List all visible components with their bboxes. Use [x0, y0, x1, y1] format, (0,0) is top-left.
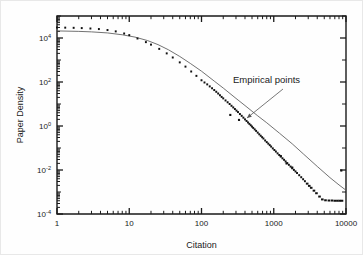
fit-curve — [57, 31, 346, 190]
data-point — [308, 185, 311, 187]
data-point — [222, 97, 224, 99]
data-point — [239, 113, 241, 115]
y-tick-label: 10-2 — [37, 165, 51, 175]
data-point — [64, 27, 66, 29]
outlier-point — [280, 155, 282, 157]
data-point — [179, 61, 181, 63]
data-point — [338, 200, 341, 202]
data-point — [227, 101, 229, 103]
data-point — [73, 27, 75, 29]
data-point — [128, 34, 130, 36]
data-point — [98, 28, 100, 30]
x-tick-label: 1000 — [265, 219, 283, 228]
data-point — [331, 200, 334, 202]
data-point — [270, 146, 272, 148]
x-tick-labels: 110100100010000 — [55, 219, 358, 228]
x-tick-label: 100 — [195, 219, 209, 228]
data-point — [242, 117, 244, 119]
x-tick-label: 10 — [125, 219, 134, 228]
data-point — [310, 187, 313, 189]
outlier-points — [229, 114, 342, 172]
data-point — [137, 37, 139, 39]
data-point — [150, 44, 152, 46]
data-point — [318, 196, 321, 198]
data-point — [145, 41, 147, 43]
data-point — [306, 183, 309, 185]
data-point — [215, 91, 217, 93]
annotation-label: Empirical points — [233, 74, 300, 85]
data-point — [262, 138, 264, 140]
data-point — [225, 99, 227, 101]
data-point — [300, 176, 302, 178]
data-point — [313, 190, 316, 192]
y-tick-labels: 10-410-2100102104 — [37, 33, 51, 219]
data-point — [166, 52, 168, 54]
x-tick-label: 10000 — [335, 219, 358, 228]
citation-paper-density-chart: 110100100010000 10-410-2100102104 Citati… — [1, 1, 363, 255]
annotation-leader-line — [247, 89, 283, 118]
data-point — [315, 192, 318, 194]
data-point — [321, 198, 324, 200]
data-point — [334, 200, 337, 202]
data-point — [123, 33, 125, 35]
data-point — [231, 105, 233, 107]
data-point — [206, 83, 208, 85]
data-point — [158, 48, 160, 50]
data-point — [209, 85, 211, 87]
data-point — [275, 151, 277, 153]
data-point — [328, 200, 331, 202]
data-point — [204, 81, 206, 83]
data-point — [302, 178, 304, 180]
y-tick-label: 10-4 — [37, 209, 51, 219]
data-point — [195, 75, 197, 77]
data-point — [89, 28, 91, 30]
data-point — [56, 27, 58, 29]
y-tick-label: 104 — [39, 33, 51, 43]
data-points — [56, 27, 343, 202]
data-point — [211, 87, 213, 89]
data-point — [219, 94, 221, 96]
x-tick-label: 1 — [55, 219, 60, 228]
outlier-point — [340, 169, 342, 171]
y-axis-ticks — [57, 16, 346, 214]
data-point — [229, 103, 231, 105]
y-tick-label: 102 — [39, 77, 51, 87]
data-point — [304, 180, 306, 182]
data-point — [172, 56, 174, 58]
data-point — [232, 106, 234, 108]
data-point — [341, 200, 344, 202]
outlier-point — [285, 162, 287, 164]
data-point — [237, 111, 239, 113]
annotation-group: Empirical points — [233, 74, 300, 118]
data-point — [277, 152, 279, 154]
data-point — [285, 160, 287, 162]
data-point — [288, 164, 290, 166]
data-point — [213, 89, 215, 91]
outlier-point — [291, 166, 293, 168]
data-point — [217, 93, 219, 95]
data-point — [185, 66, 187, 68]
data-point — [282, 157, 284, 159]
data-point — [298, 174, 300, 176]
outlier-point — [238, 119, 240, 121]
data-point — [190, 71, 192, 73]
data-point — [241, 115, 243, 117]
y-tick-label: 100 — [39, 121, 51, 131]
outlier-point — [229, 114, 231, 116]
plot-frame — [57, 16, 346, 214]
data-point — [296, 172, 298, 174]
data-point — [201, 79, 203, 81]
data-point — [107, 29, 109, 31]
x-axis-title: Citation — [186, 240, 217, 250]
y-axis-title: Paper Density — [15, 86, 25, 143]
x-axis-ticks — [57, 16, 346, 214]
data-point — [81, 27, 83, 29]
data-point — [255, 130, 257, 132]
figure-container: 110100100010000 10-410-2100102104 Citati… — [0, 0, 363, 255]
data-point — [115, 30, 117, 32]
data-point — [336, 200, 339, 202]
data-point — [324, 199, 327, 201]
